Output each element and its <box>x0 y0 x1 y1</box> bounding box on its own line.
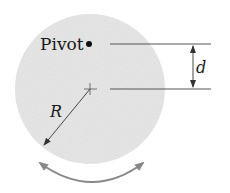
distance-label: d <box>196 58 206 77</box>
radius-label: R <box>49 102 62 121</box>
pivot-dot <box>86 41 92 47</box>
oscillation-arrow-icon <box>40 163 143 182</box>
pendulum-diagram: Pivot d R <box>0 0 230 193</box>
pivot-label: Pivot <box>40 34 84 54</box>
